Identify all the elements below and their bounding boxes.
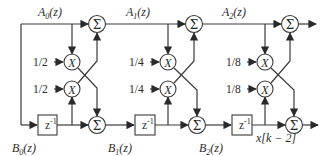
svg-text:X: X [260,56,269,70]
stage-1: Σ X X Σ z-1 1/4 1/4 A1(z) B1(z) [108,5,206,156]
svg-text:X: X [163,56,172,70]
coef-lower-0: 1/2 [33,83,48,95]
svg-text:X: X [67,56,76,70]
coef-upper-2: 1/8 [226,56,241,68]
coef-upper-0: 1/2 [33,56,48,68]
svg-text:Σ: Σ [93,18,101,32]
svg-text:Σ: Σ [190,18,198,32]
svg-text:X: X [163,83,172,97]
label-B1: B1(z) [108,141,132,156]
svg-text:X: X [67,83,76,97]
label-B0: B0(z) [12,141,36,156]
svg-text:Σ: Σ [193,119,201,133]
stage-2: Σ X X Σ z-1 1/8 1/8 A2(z) B2(z) x[k − 2] [199,5,303,156]
label-B2: B2(z) [199,141,223,156]
label-A2: A2(z) [221,5,246,21]
coef-lower-2: 1/8 [226,83,241,95]
svg-text:Σ: Σ [286,18,294,32]
lattice-filter-diagram: Σ X X Σ z-1 1/2 1/2 A0(z) B0(z) Σ X X Σ … [0,0,329,156]
svg-text:Σ: Σ [93,119,101,133]
coef-lower-1: 1/4 [129,83,144,95]
label-delay-output: x[k − 2] [255,131,296,145]
stage-0: Σ X X Σ z-1 1/2 1/2 A0(z) B0(z) [12,5,106,156]
coef-upper-1: 1/4 [129,56,144,68]
svg-text:X: X [260,83,269,97]
label-A1: A1(z) [125,5,150,21]
label-A0: A0(z) [37,5,62,21]
